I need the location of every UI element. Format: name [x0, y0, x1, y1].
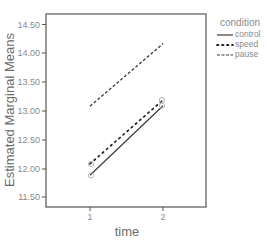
- y-tick-label: 12.50: [17, 135, 40, 145]
- x-tick-label: 2: [160, 212, 165, 222]
- y-tick-label: 13.50: [17, 77, 40, 87]
- y-tick-label: 11.50: [18, 192, 40, 202]
- plot-area: [46, 14, 206, 207]
- y-tick-label: 12.00: [17, 164, 40, 174]
- x-tick-label: 1: [87, 212, 92, 222]
- y-tick-label: 14.50: [17, 20, 40, 30]
- x-axis-title: time: [115, 224, 140, 239]
- y-axis-title: Estimated Marginal Means: [2, 33, 17, 187]
- legend-label-speed: speed: [235, 39, 258, 49]
- legend-label-pause: pause: [235, 49, 258, 59]
- y-tick-label: 14.00: [17, 48, 40, 58]
- legend-label-control: control: [235, 29, 261, 39]
- profile-plot: 14.50 14.00 13.50 13.00 12.50 12.00 11.5…: [0, 0, 267, 244]
- x-axis: 1 2: [87, 207, 165, 222]
- legend: condition control speed pause: [217, 17, 261, 59]
- y-axis: 14.50 14.00 13.50 13.00 12.50 12.00 11.5…: [17, 20, 46, 203]
- legend-title: condition: [220, 17, 260, 28]
- y-tick-label: 13.00: [17, 106, 40, 116]
